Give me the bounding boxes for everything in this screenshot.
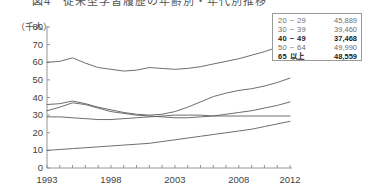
series-line-65以上 [47,121,290,150]
legend-group-label: 65 以上 [278,52,304,61]
y-axis-tick-label: 30 [21,109,43,120]
y-axis-tick-label: 40 [21,92,43,103]
y-axis-tick-label: 0 [21,162,43,173]
chart-axes [47,26,292,168]
x-axis-tick-label: 2003 [155,174,195,185]
legend-row: 65 以上48,559 [278,52,357,61]
legend-group-label: 20 ~ 29 [278,16,306,25]
x-axis-tick-label: 2008 [219,174,259,185]
series-line-30~39 [47,78,290,115]
legend-value: 45,889 [334,16,357,25]
legend-value: 49,990 [334,43,357,52]
y-axis-tick-label: 70 [21,39,43,50]
y-axis-tick-label: 80 [21,21,43,32]
x-axis-tick-label: 1993 [27,174,67,185]
legend-row: 40 ~ 4937,468 [278,34,357,43]
y-axis-tick-label: 50 [21,74,43,85]
y-axis-tick-label: 10 [21,144,43,155]
chart-container: 図4 従来型学習履歴の年齢別・年代別推移 （千人） 01020304050607… [0,0,374,193]
x-axis-tick-label: 2012 [270,174,310,185]
series-line-20~29 [47,42,290,71]
chart-series [47,42,290,150]
legend-row: 50 ~ 6449,990 [278,43,357,52]
legend-group-label: 40 ~ 49 [278,34,306,43]
legend-value: 48,559 [334,52,357,61]
legend-box: 20 ~ 2945,88930 ~ 3939,46040 ~ 4937,4685… [272,13,362,61]
legend-value: 37,468 [334,34,357,43]
legend-row: 20 ~ 2945,889 [278,16,357,25]
y-axis-tick-label: 60 [21,56,43,67]
y-axis-tick-label: 20 [21,127,43,138]
legend-value: 39,460 [334,25,357,34]
legend-row: 30 ~ 3939,460 [278,25,357,34]
legend-group-label: 30 ~ 39 [278,25,306,34]
x-axis-tick-label: 1998 [91,174,131,185]
legend-group-label: 50 ~ 64 [278,43,306,52]
